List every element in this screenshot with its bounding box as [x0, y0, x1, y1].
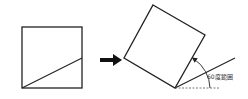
diagram-canvas [0, 0, 248, 99]
diagonal-line [22, 58, 82, 88]
angle-label: 60度範囲 [207, 72, 233, 81]
right-arrow-icon [100, 54, 122, 66]
original-square [22, 27, 82, 88]
